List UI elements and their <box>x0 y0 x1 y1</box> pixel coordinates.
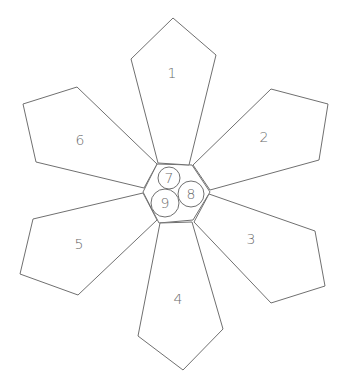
petal-1[interactable]: 1 <box>131 18 216 165</box>
petal-5[interactable]: 5 <box>20 193 157 295</box>
petal-2[interactable]: 2 <box>193 89 328 190</box>
circle-7-label: 7 <box>165 170 174 186</box>
circle-7[interactable]: 7 <box>158 167 180 189</box>
circle-9[interactable]: 9 <box>151 189 179 217</box>
circle-8[interactable]: 8 <box>178 181 204 207</box>
petal-5-label: 5 <box>75 236 84 252</box>
petal-6-shape[interactable] <box>23 87 157 188</box>
petal-5-shape[interactable] <box>20 193 157 295</box>
petal-3-label: 3 <box>247 231 256 247</box>
circle-8-label: 8 <box>187 186 196 202</box>
flower-diagram: 1 2 3 4 5 6 7 8 9 <box>0 0 346 385</box>
petal-6-label: 6 <box>76 132 85 148</box>
petal-1-shape[interactable] <box>131 18 216 165</box>
petal-2-label: 2 <box>260 129 269 145</box>
petal-1-label: 1 <box>168 65 177 81</box>
petal-4[interactable]: 4 <box>138 222 223 370</box>
circle-9-label: 9 <box>161 195 170 211</box>
petal-3-shape[interactable] <box>194 194 325 303</box>
petal-4-label: 4 <box>174 291 183 307</box>
petal-3[interactable]: 3 <box>194 194 325 303</box>
petal-6[interactable]: 6 <box>23 87 157 188</box>
